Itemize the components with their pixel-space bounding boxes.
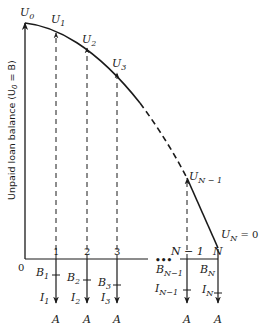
payment-label-n: A — [213, 313, 222, 326]
interest-label-n-1: IN−1 — [154, 282, 178, 297]
period-label-n-1: N − 1 — [170, 245, 204, 258]
interest-label-1: I1 — [39, 291, 49, 306]
principal-label-n-1: BN−1 — [155, 263, 183, 278]
origin-label: 0 — [18, 262, 24, 273]
balance-curve-solid-lower — [187, 178, 218, 248]
payment-label-n-1: A — [182, 313, 191, 326]
payment-label-1: A — [51, 313, 60, 326]
interest-label-2: I2 — [70, 291, 80, 306]
period-label-1: 1 — [53, 246, 59, 257]
principal-label-n: BN — [199, 263, 216, 278]
label-u-n: UN = 0 — [221, 228, 258, 243]
principal-label-1: B1 — [35, 266, 49, 281]
payment-label-2: A — [82, 313, 91, 326]
period-label-2: 2 — [84, 246, 90, 257]
principal-label-2: B2 — [66, 271, 80, 286]
y-axis-label: Unpaid loan balance (U0 = B) — [6, 60, 19, 200]
period-label-3: 3 — [114, 246, 120, 257]
principal-label-3: B3 — [97, 276, 111, 291]
label-u3: U3 — [112, 57, 126, 72]
balance-curve-dashed — [140, 103, 187, 178]
interest-label-n: IN — [201, 283, 214, 298]
loan-balance-diagram: ••• 0 U0 U1 U2 U3 UN − 1 UN = 0 1 2 3 N … — [0, 0, 269, 333]
payment-label-3: A — [112, 313, 121, 326]
label-u1: U1 — [51, 13, 65, 28]
interest-label-3: I3 — [100, 291, 110, 306]
period-label-n: N — [212, 245, 223, 258]
label-u-n-1: UN − 1 — [189, 170, 222, 185]
label-u2: U2 — [82, 33, 96, 48]
label-u0: U0 — [20, 6, 34, 21]
